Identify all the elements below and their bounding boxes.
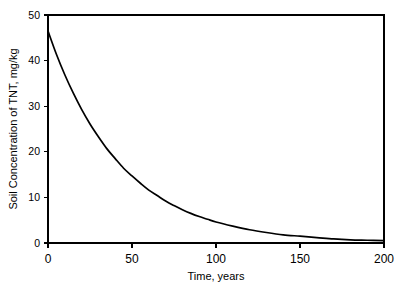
y-axis-title: Soil Concentration of TNT, mg/kg (7, 48, 19, 209)
chart-canvas: 01020304050 050100150200 Time, years Soi… (0, 0, 395, 291)
x-tick-label: 200 (374, 252, 394, 266)
plot-frame (48, 15, 384, 243)
chart-figure: 01020304050 050100150200 Time, years Soi… (0, 0, 395, 291)
data-series-line (48, 31, 384, 241)
x-tick-label: 0 (45, 252, 52, 266)
x-tick-label: 150 (290, 252, 310, 266)
x-tick-label: 50 (125, 252, 139, 266)
y-axis-ticks: 01020304050 (28, 9, 48, 249)
y-tick-label: 0 (34, 237, 40, 249)
x-axis-title: Time, years (187, 270, 245, 282)
y-tick-label: 30 (28, 100, 40, 112)
y-tick-label: 10 (28, 191, 40, 203)
y-tick-label: 50 (28, 9, 40, 21)
x-tick-label: 100 (206, 252, 226, 266)
axis-frame (48, 15, 384, 243)
y-tick-label: 20 (28, 145, 40, 157)
y-tick-label: 40 (28, 54, 40, 66)
x-axis-ticks: 050100150200 (45, 243, 395, 266)
